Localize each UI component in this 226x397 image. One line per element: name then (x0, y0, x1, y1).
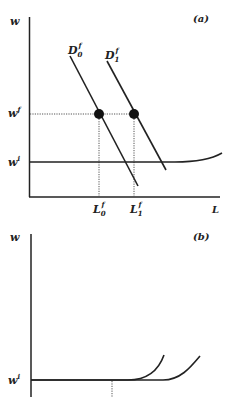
panel-b: w (b) wi (8, 231, 210, 397)
quantity-label-l1: L1f (129, 200, 144, 218)
panel-b-supply-curve-1 (31, 355, 164, 380)
panel-a: w (a) L wf wi D0f D1f L0f (8, 13, 222, 218)
panel-b-tag: (b) (193, 231, 210, 242)
wage-label-wi: wi (8, 154, 20, 169)
panel-b-supply-curve-2 (31, 356, 200, 380)
panel-b-wage-label-wi: wi (8, 372, 20, 387)
demand-curve-d0 (70, 56, 138, 186)
labor-market-diagram: w (a) L wf wi D0f D1f L0f (0, 0, 226, 397)
equilibrium-point-0 (94, 109, 104, 119)
panel-b-y-axis-label: w (10, 231, 20, 244)
wage-label-wf: wf (8, 105, 22, 120)
panel-a-tag: (a) (193, 13, 209, 24)
equilibrium-point-1 (129, 109, 139, 119)
demand-label-d1: D1f (104, 46, 120, 64)
quantity-label-l0: L0f (92, 200, 107, 218)
demand-label-d0: D0f (67, 41, 83, 59)
supply-curve-wi (30, 153, 222, 162)
panel-a-x-axis-label: L (211, 204, 219, 215)
panel-a-y-axis-label: w (10, 15, 20, 28)
